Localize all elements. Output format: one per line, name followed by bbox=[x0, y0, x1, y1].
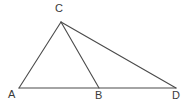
vertex-label-b: B bbox=[95, 90, 102, 101]
segment-CD bbox=[61, 22, 176, 88]
segment-AC bbox=[19, 22, 61, 88]
vertex-label-d: D bbox=[172, 90, 180, 101]
vertex-label-c: C bbox=[55, 3, 63, 14]
geometry-figure: A B C D bbox=[0, 0, 191, 104]
vertex-label-a: A bbox=[8, 89, 15, 100]
segment-CB bbox=[61, 22, 99, 88]
